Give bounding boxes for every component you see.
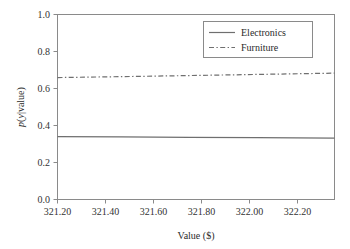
y-tick-label: 0.6	[38, 83, 51, 94]
x-tick-label: 321.20	[44, 206, 72, 217]
x-tick-label: 322.00	[236, 206, 264, 217]
chart-figure: 0.0 0.2 0.4 0.6 0.8 1.0 321.20 321.40 32…	[0, 0, 350, 249]
x-tick-label: 321.60	[140, 206, 168, 217]
y-tick-label: 0.2	[38, 157, 51, 168]
y-tick-label: 0.0	[38, 194, 51, 205]
x-axis-title: Value ($)	[178, 230, 215, 242]
x-axis: 321.20 321.40 321.60 321.80 322.00 322.2…	[44, 200, 312, 218]
y-tick-label: 1.0	[38, 9, 51, 20]
series-group	[58, 73, 335, 138]
x-tick-label: 321.40	[92, 206, 120, 217]
x-tick-label: 321.80	[188, 206, 216, 217]
y-axis-title-rest: |value)	[15, 87, 27, 114]
x-tick-group	[58, 200, 298, 204]
series-line-electronics	[58, 137, 335, 138]
legend-label: Electronics	[241, 27, 286, 38]
legend-label: Furniture	[241, 42, 279, 53]
series-line-furniture	[58, 73, 335, 77]
svg-text:p(y|value): p(y|value)	[15, 87, 27, 128]
chart-legend[interactable]: Electronics Furniture	[204, 22, 313, 58]
y-tick-label: 0.8	[38, 46, 51, 57]
x-tick-label: 322.20	[284, 206, 312, 217]
y-tick-label: 0.4	[38, 120, 51, 131]
y-axis: 0.0 0.2 0.4 0.6 0.8 1.0	[38, 9, 58, 205]
line-chart: 0.0 0.2 0.4 0.6 0.8 1.0 321.20 321.40 32…	[0, 0, 350, 249]
y-tick-group	[54, 15, 58, 200]
y-axis-title: p(y|value)	[15, 87, 27, 128]
